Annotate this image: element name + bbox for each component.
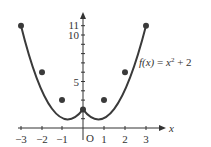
function-label: f(x) = x2 + 2 (139, 56, 192, 69)
data-point (39, 69, 45, 75)
y-tick-label: 5 (74, 76, 80, 88)
x-tick-label: −2 (36, 133, 48, 145)
y-tick-label: 11 (68, 19, 79, 31)
x-tick-label: 3 (143, 133, 149, 145)
x-tick-label: 2 (122, 133, 128, 145)
data-point (18, 23, 24, 29)
x-tick-label: −3 (15, 133, 27, 145)
data-point (101, 97, 107, 103)
x-tick-label: 1 (101, 133, 107, 145)
data-point (122, 69, 128, 75)
y-axis (80, 12, 86, 140)
data-point (80, 106, 86, 112)
data-point (59, 97, 65, 103)
x-axis-arrow-icon (159, 125, 166, 131)
x-tick-label: −1 (56, 133, 68, 145)
x-axis (18, 125, 166, 131)
x-axis-label: x (168, 122, 174, 134)
data-point (143, 23, 149, 29)
parabola-chart: −3 −2 −1 1 2 3 O x 5 10 11 f(x) = x2 + 2 (0, 0, 211, 147)
origin-label: O (86, 132, 94, 144)
y-axis-arrow-icon (80, 12, 86, 19)
